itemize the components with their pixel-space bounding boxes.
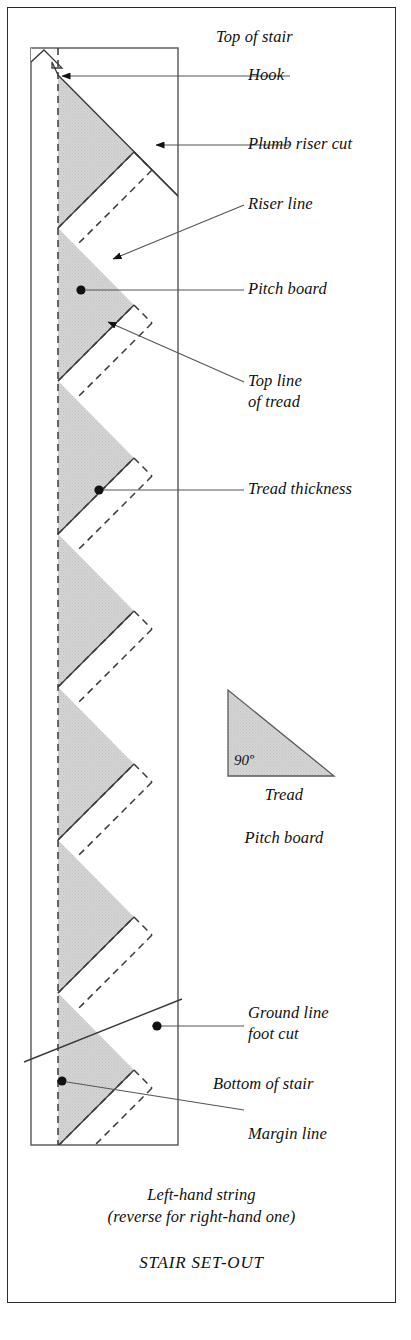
label-top-of-stair: Top of stair xyxy=(216,27,293,46)
stair-set-out-drawing xyxy=(0,0,411,1340)
dot-pitch-board xyxy=(76,285,85,294)
figure-page: Top of stair Hook Plumb riser cut Riser … xyxy=(0,0,411,1340)
dot-ground-line xyxy=(152,1021,161,1030)
label-riser-line: Riser line xyxy=(248,194,313,213)
string-body-shading xyxy=(58,54,152,1240)
label-top-line-of-tread-line1: Top line xyxy=(248,371,302,390)
label-tread-thickness: Tread thickness xyxy=(248,479,352,498)
label-legend-tread: Tread xyxy=(238,785,330,804)
caption-line-1: Left-hand string xyxy=(27,1185,376,1204)
dot-tread-thickness xyxy=(94,485,103,494)
label-hook: Hook xyxy=(248,65,284,84)
label-top-line-of-tread-line2: of tread xyxy=(248,392,300,411)
dot-margin-line xyxy=(57,1076,66,1085)
figure-title: STAIR SET-OUT xyxy=(27,1253,376,1273)
label-pitch-board: Pitch board xyxy=(248,279,327,298)
caption-line-2: (reverse for right-hand one) xyxy=(27,1207,376,1226)
label-legend-angle: 90º xyxy=(234,752,254,770)
label-margin-line: Margin line xyxy=(248,1124,327,1143)
label-ground-line-line1: Ground line xyxy=(248,1003,329,1022)
label-plumb-riser-cut: Plumb riser cut xyxy=(248,134,352,153)
label-ground-line-line2: foot cut xyxy=(248,1024,299,1043)
leader-top-line-of-tread xyxy=(108,322,244,382)
label-legend-pitch-board: Pitch board xyxy=(222,828,346,847)
label-bottom-of-stair: Bottom of stair xyxy=(213,1074,314,1093)
